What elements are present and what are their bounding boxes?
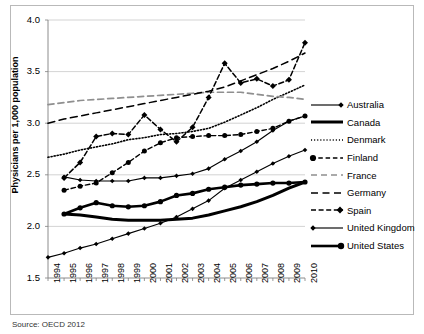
source-caption: Source: OECD 2012	[12, 320, 85, 329]
legend-swatch-icon	[309, 116, 345, 128]
data-point-marker	[238, 132, 243, 137]
data-point-marker	[110, 170, 115, 175]
data-point-marker	[158, 176, 163, 181]
legend-item-spain[interactable]: Spain	[309, 202, 415, 220]
series-line-germany	[48, 53, 305, 123]
data-point-marker	[206, 94, 212, 100]
legend-item-label: France	[345, 170, 377, 181]
data-point-marker	[110, 236, 115, 241]
data-point-marker	[255, 169, 260, 174]
x-tick-label: 2010	[309, 263, 319, 283]
data-point-marker	[206, 187, 211, 192]
data-point-marker	[142, 226, 147, 231]
data-point-marker	[238, 149, 243, 154]
legend-item-france[interactable]: France	[309, 166, 415, 184]
data-point-marker	[303, 113, 308, 118]
x-tick-label: 1997	[100, 263, 110, 283]
x-tick-label: 2004	[212, 263, 222, 283]
legend-item-label: Denmark	[345, 134, 386, 145]
legend-item-united-states[interactable]: United States	[309, 237, 415, 255]
series-line-australia	[64, 116, 305, 181]
x-tick-label: 2001	[164, 263, 174, 283]
data-point-marker	[94, 200, 99, 205]
legend-item-denmark[interactable]: Denmark	[309, 131, 415, 149]
legend-item-germany[interactable]: Germany	[309, 184, 415, 202]
data-point-marker	[110, 179, 115, 184]
data-point-marker	[126, 160, 131, 165]
legend-swatch-icon	[309, 240, 345, 252]
legend-item-united-kingdom[interactable]: United Kingdom	[309, 219, 415, 237]
data-point-marker	[222, 157, 227, 162]
legend-item-label: Finland	[345, 152, 378, 163]
data-point-marker	[271, 161, 276, 166]
data-point-marker	[126, 204, 131, 209]
data-point-marker	[302, 40, 308, 46]
x-tick-label: 2008	[276, 263, 286, 283]
x-tick-label: 1995	[68, 263, 78, 283]
data-point-marker	[190, 134, 195, 139]
data-point-marker	[206, 133, 211, 138]
data-point-marker	[222, 133, 227, 138]
x-tick-label: 2009	[292, 263, 302, 283]
x-tick-label: 1994	[52, 263, 62, 283]
y-tick-label: 3.0	[14, 119, 40, 127]
x-tick-label: 2000	[148, 263, 158, 283]
data-point-marker	[270, 83, 276, 89]
data-point-marker	[302, 179, 307, 184]
gridlines	[48, 72, 305, 227]
data-point-marker	[238, 183, 243, 188]
data-point-marker	[62, 251, 67, 256]
data-point-marker	[62, 188, 67, 193]
legend-item-label: United States	[345, 240, 404, 251]
x-tick-label: 1998	[116, 263, 126, 283]
data-point-marker	[238, 178, 243, 183]
data-point-marker	[174, 193, 179, 198]
series-line-finland	[64, 116, 305, 190]
data-point-marker	[190, 207, 195, 212]
data-point-marker	[61, 211, 66, 216]
x-tick-label: 1996	[84, 263, 94, 283]
data-point-marker	[287, 154, 292, 159]
x-tick-label: 2006	[244, 263, 254, 283]
legend-item-canada[interactable]: Canada	[309, 114, 415, 132]
data-point-marker	[174, 174, 179, 179]
data-point-marker	[158, 140, 163, 145]
x-tick-label: 2002	[180, 263, 190, 283]
y-tick-label: 4.0	[14, 16, 40, 24]
x-tick-label: 2005	[228, 263, 238, 283]
legend-swatch-icon	[309, 169, 345, 181]
axis-lines	[48, 20, 305, 278]
legend-item-finland[interactable]: Finland	[309, 149, 415, 167]
data-point-marker	[142, 149, 147, 154]
data-point-marker	[254, 76, 260, 82]
data-point-marker	[46, 255, 51, 260]
y-tick-label: 3.5	[14, 67, 40, 75]
legend-item-label: Spain	[345, 205, 371, 216]
legend-item-label: Canada	[345, 117, 380, 128]
series-line-united-kingdom	[48, 150, 305, 257]
y-tick-label: 2.5	[14, 170, 40, 178]
data-point-marker	[142, 176, 147, 181]
data-point-marker	[109, 131, 115, 137]
data-point-marker	[270, 180, 275, 185]
data-point-marker	[110, 203, 115, 208]
data-point-marker	[126, 231, 131, 236]
data-point-marker	[190, 171, 195, 176]
data-point-marker	[222, 185, 227, 190]
data-point-marker	[254, 129, 259, 134]
data-point-marker	[94, 181, 99, 186]
legend-item-australia[interactable]: Australia	[309, 96, 415, 114]
data-point-marker	[158, 199, 163, 204]
data-point-marker	[78, 246, 83, 251]
series-line-spain	[64, 43, 305, 178]
x-tick-label: 1999	[132, 263, 142, 283]
legend-swatch-icon	[309, 134, 345, 146]
data-point-marker	[303, 148, 308, 153]
data-point-marker	[78, 205, 83, 210]
legend-swatch-icon	[309, 99, 345, 111]
legend-swatch-icon	[309, 204, 345, 216]
data-point-marker	[78, 184, 83, 189]
data-point-marker	[286, 180, 291, 185]
y-tick-label: 1.5	[14, 274, 40, 282]
data-point-marker	[78, 178, 83, 183]
